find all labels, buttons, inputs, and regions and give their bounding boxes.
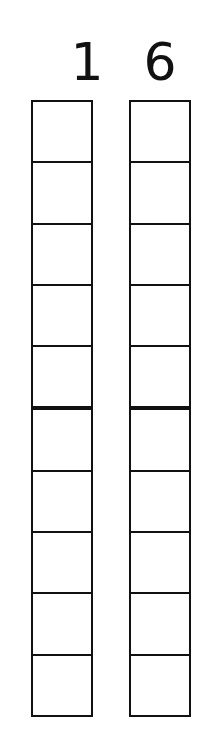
box bbox=[131, 286, 189, 347]
box bbox=[131, 102, 189, 163]
box bbox=[33, 410, 91, 471]
box bbox=[131, 594, 189, 655]
box bbox=[131, 410, 189, 471]
box bbox=[33, 225, 91, 286]
box bbox=[33, 347, 91, 410]
box bbox=[131, 225, 189, 286]
box bbox=[33, 163, 91, 224]
box bbox=[131, 656, 189, 715]
box bbox=[33, 286, 91, 347]
box bbox=[33, 656, 91, 715]
box bbox=[33, 594, 91, 655]
box bbox=[131, 533, 189, 594]
box bbox=[131, 472, 189, 533]
digit-ones: 6 bbox=[135, 36, 185, 88]
column-tens bbox=[31, 100, 93, 717]
box bbox=[131, 347, 189, 410]
box bbox=[33, 472, 91, 533]
box bbox=[33, 102, 91, 163]
column-ones bbox=[129, 100, 191, 717]
box bbox=[33, 533, 91, 594]
box bbox=[131, 163, 189, 224]
digit-tens: 1 bbox=[62, 36, 112, 88]
